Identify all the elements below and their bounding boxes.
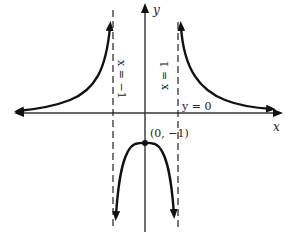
horizontal-asymptote-label: y = 0	[181, 100, 211, 113]
function-graph: y x y = 0 (0, −1) x = −1 x = 1	[0, 0, 291, 235]
graph-canvas: y x y = 0 (0, −1) x = −1 x = 1	[0, 0, 291, 235]
x-axis-label: x	[273, 120, 280, 134]
right-asymptote-label: x = 1	[158, 61, 171, 90]
curve-right-branch	[181, 27, 272, 109]
point-label: (0, −1)	[150, 127, 189, 140]
y-axis-label: y	[152, 3, 160, 17]
left-asymptote-label: x = −1	[115, 60, 128, 99]
point-0-neg1	[142, 140, 148, 146]
curve-left-branch	[18, 27, 110, 111]
